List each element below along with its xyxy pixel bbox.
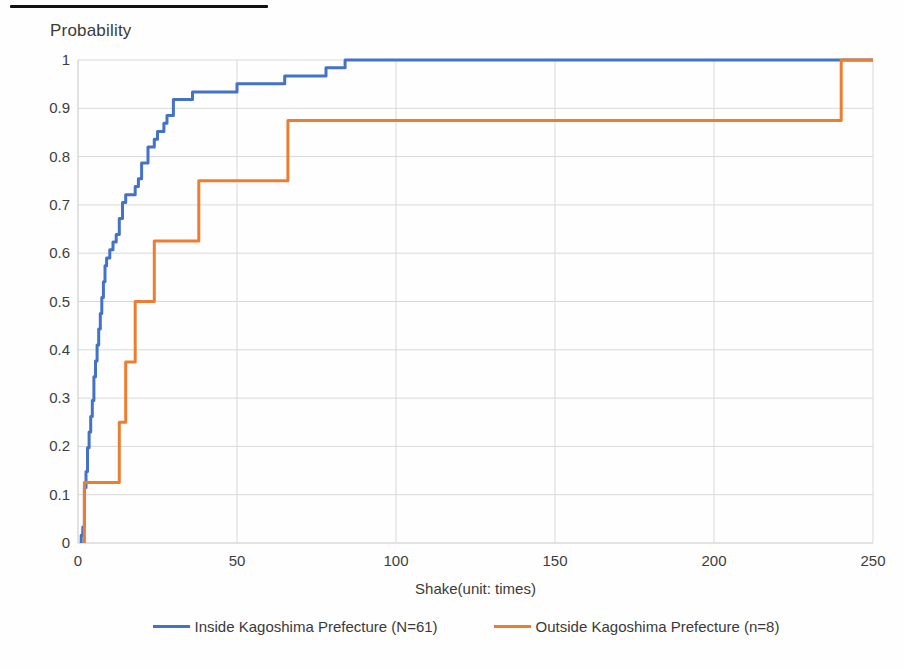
x-tick-label: 100 bbox=[366, 552, 426, 570]
legend-label-outside: Outside Kagoshima Prefecture (n=8) bbox=[536, 618, 780, 635]
legend: Inside Kagoshima Prefecture (N=61) Outsi… bbox=[0, 618, 904, 635]
y-tick-label: 0.4 bbox=[24, 341, 70, 359]
y-tick-label: 0.6 bbox=[24, 244, 70, 262]
y-tick-label: 0.1 bbox=[24, 486, 70, 504]
y-tick-label: 0.8 bbox=[24, 148, 70, 166]
y-tick-label: 0.3 bbox=[24, 389, 70, 407]
y-tick-label: 1 bbox=[24, 51, 70, 69]
y-tick-label: 0.5 bbox=[24, 293, 70, 311]
plot-area bbox=[0, 0, 904, 669]
x-tick-label: 200 bbox=[684, 552, 744, 570]
y-tick-label: 0.2 bbox=[24, 437, 70, 455]
x-tick-label: 50 bbox=[207, 552, 267, 570]
legend-swatch-inside-icon bbox=[153, 625, 190, 628]
legend-label-inside: Inside Kagoshima Prefecture (N=61) bbox=[195, 618, 438, 635]
legend-item-outside: Outside Kagoshima Prefecture (n=8) bbox=[494, 618, 780, 635]
x-tick-label: 150 bbox=[525, 552, 585, 570]
legend-swatch-outside-icon bbox=[494, 625, 531, 628]
y-tick-label: 0 bbox=[24, 534, 70, 552]
chart-canvas: Probability 00.10.20.30.40.50.60.70.80.9… bbox=[0, 0, 904, 669]
legend-item-inside: Inside Kagoshima Prefecture (N=61) bbox=[153, 618, 438, 635]
x-tick-label: 0 bbox=[48, 552, 108, 570]
x-tick-label: 250 bbox=[843, 552, 903, 570]
y-tick-label: 0.9 bbox=[24, 99, 70, 117]
x-axis-title: Shake(unit: times) bbox=[78, 580, 873, 597]
y-tick-label: 0.7 bbox=[24, 196, 70, 214]
